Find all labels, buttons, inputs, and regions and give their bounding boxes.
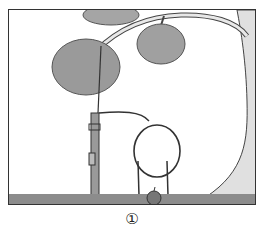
- figure-caption: ①: [0, 210, 264, 228]
- apple-bait-icon: [147, 191, 161, 205]
- foliage-icon: [52, 10, 185, 95]
- illustration-frame: [8, 9, 256, 205]
- snare-trap-illustration: [9, 10, 256, 205]
- grass-icon: [9, 194, 256, 205]
- noose-loop-icon: [134, 125, 180, 177]
